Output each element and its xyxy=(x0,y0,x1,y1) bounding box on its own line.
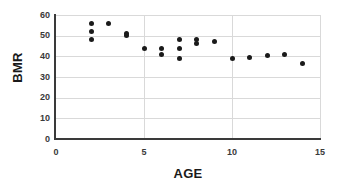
data-point xyxy=(194,41,199,46)
x-axis-tick-labels: 051015 xyxy=(56,148,320,160)
data-point xyxy=(177,46,182,51)
gridline-horizontal xyxy=(56,36,320,37)
x-axis-line xyxy=(54,138,321,140)
y-tick-label: 60 xyxy=(28,11,50,20)
x-axis-title: AGE xyxy=(56,166,320,181)
x-tick-label: 5 xyxy=(129,148,159,157)
data-point xyxy=(124,33,129,38)
gridline-horizontal xyxy=(56,56,320,57)
x-tick-label: 10 xyxy=(217,148,247,157)
y-axis-tick-labels: 0102030405060 xyxy=(24,15,50,139)
gridline-horizontal xyxy=(56,98,320,99)
data-point xyxy=(89,21,94,26)
data-point xyxy=(89,37,94,42)
gridline-vertical xyxy=(320,15,321,139)
data-point xyxy=(89,29,94,34)
x-tick-label: 15 xyxy=(305,148,335,157)
data-point xyxy=(177,56,182,61)
data-point xyxy=(159,52,164,57)
y-tick-label: 30 xyxy=(28,73,50,82)
gridline-horizontal xyxy=(56,118,320,119)
data-point xyxy=(265,53,270,58)
data-point xyxy=(106,21,111,26)
data-point xyxy=(300,61,305,66)
data-point xyxy=(142,46,147,51)
data-point xyxy=(177,37,182,42)
y-tick-label: 0 xyxy=(28,135,50,144)
data-point xyxy=(247,55,252,60)
y-axis-line xyxy=(54,14,56,140)
data-point xyxy=(230,56,235,61)
data-point xyxy=(212,39,217,44)
y-tick-label: 20 xyxy=(28,93,50,102)
y-axis-title: BMR xyxy=(10,38,25,98)
plot-area xyxy=(56,15,320,139)
scatter-chart: 0102030405060 051015 BMR AGE xyxy=(0,0,341,190)
y-tick-label: 10 xyxy=(28,114,50,123)
gridline-vertical xyxy=(144,15,145,139)
gridline-horizontal xyxy=(56,15,320,16)
gridline-horizontal xyxy=(56,77,320,78)
y-tick-label: 50 xyxy=(28,31,50,40)
data-point xyxy=(159,46,164,51)
x-tick-label: 0 xyxy=(41,148,71,157)
gridline-vertical xyxy=(232,15,233,139)
y-tick-label: 40 xyxy=(28,52,50,61)
